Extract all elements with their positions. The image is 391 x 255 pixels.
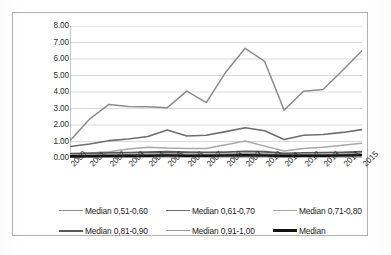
legend-swatch-line-icon (166, 210, 190, 211)
legend-item[interactable]: Median 0,51-0,60 (59, 206, 148, 216)
y-axis-tick-label: 4.00 (27, 87, 69, 97)
legend-item[interactable]: Median 0,91-1,00 (166, 226, 255, 236)
legend-label: Median 0,71-0,80 (299, 206, 362, 216)
y-axis-tick-label: 2.00 (27, 120, 69, 130)
legend-item[interactable]: Median (273, 226, 326, 236)
legend-swatch-line-icon (166, 230, 190, 231)
legend-item[interactable]: Median 0,81-0,90 (59, 226, 148, 236)
legend-label: Median 0,81-0,90 (85, 226, 148, 236)
legend-row: Median 0,51-0,60Median 0,61-0,70Median 0… (27, 201, 357, 220)
legend-swatch-line-icon (273, 210, 297, 211)
legend-label: Median (299, 226, 326, 236)
y-axis-tick-label: 1.00 (27, 137, 69, 147)
y-axis-tick-label: 0.00 (27, 153, 69, 163)
chart-frame: 8.007.006.005.004.003.002.001.000.00 200… (12, 12, 368, 236)
y-axis-tick-label: 8.00 (27, 21, 69, 31)
y-axis: 8.007.006.005.004.003.002.001.000.00 (27, 20, 69, 164)
plot-svg (70, 26, 362, 158)
series-line (70, 48, 362, 140)
legend-swatch-line-icon (59, 210, 83, 211)
legend-swatch-line-icon (273, 229, 297, 232)
y-axis-tick-label: 7.00 (27, 38, 69, 48)
legend-label: Median 0,61-0,70 (192, 206, 255, 216)
series-line (70, 128, 362, 147)
legend-row: Median 0,81-0,90Median 0,91-1,00Median (27, 221, 357, 240)
x-axis-tick-label: 2015 (361, 149, 380, 168)
y-axis-tick-label: 5.00 (27, 71, 69, 81)
y-axis-tick-label: 6.00 (27, 54, 69, 64)
plot-area (70, 26, 362, 158)
legend-label: Median 0,91-1,00 (192, 226, 255, 236)
chart-figure: 8.007.006.005.004.003.002.001.000.00 200… (0, 0, 391, 255)
legend-item[interactable]: Median 0,61-0,70 (166, 206, 255, 216)
legend-swatch-line-icon (59, 230, 83, 232)
chart-legend: Median 0,51-0,60Median 0,61-0,70Median 0… (27, 201, 357, 245)
legend-label: Median 0,51-0,60 (85, 206, 148, 216)
y-axis-tick-label: 3.00 (27, 104, 69, 114)
x-axis: 2000200120022003200420052006200720082009… (70, 159, 370, 201)
legend-item[interactable]: Median 0,71-0,80 (273, 206, 362, 216)
